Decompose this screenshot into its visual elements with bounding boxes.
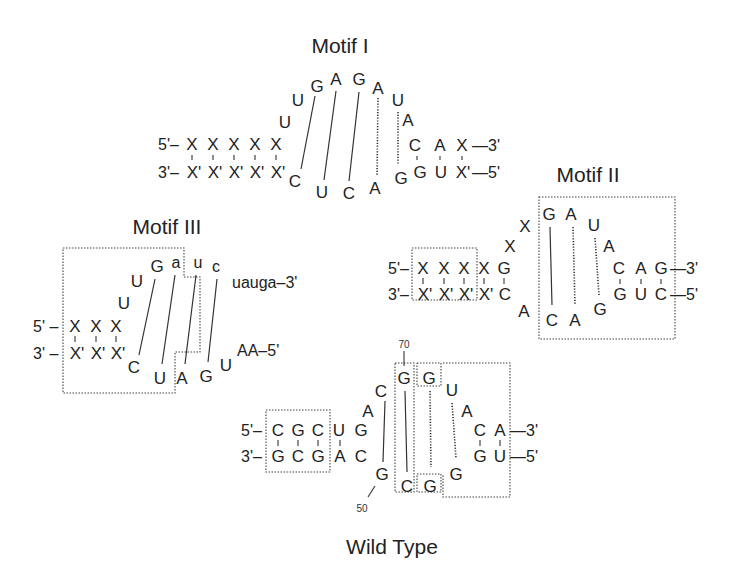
base: X' bbox=[479, 285, 494, 304]
position-70-label: 70 bbox=[398, 339, 410, 350]
base: A bbox=[372, 79, 384, 98]
base: C bbox=[343, 184, 355, 203]
base: C bbox=[355, 447, 367, 466]
base: G bbox=[354, 421, 367, 440]
base: C bbox=[272, 421, 284, 440]
base: U bbox=[635, 285, 647, 304]
base: C bbox=[546, 311, 558, 330]
base: X' bbox=[208, 163, 223, 182]
base: X bbox=[69, 317, 80, 336]
base: G bbox=[654, 259, 667, 278]
base: G bbox=[413, 163, 426, 182]
base: U bbox=[588, 216, 600, 235]
base: G bbox=[422, 369, 435, 388]
base: A bbox=[369, 179, 381, 198]
base: U bbox=[446, 381, 458, 400]
base: U bbox=[292, 91, 304, 110]
base: A bbox=[635, 259, 647, 278]
base: G bbox=[310, 77, 323, 96]
motif-1-3prime-label: 3'– bbox=[158, 164, 179, 181]
base: G bbox=[394, 169, 407, 188]
base: G bbox=[497, 259, 510, 278]
base: A bbox=[461, 402, 473, 421]
motif-3-3prime-label: 3' – bbox=[33, 345, 58, 362]
motif-1: Motif I 5'– 3'– X X X X X X' X' X' X' X'… bbox=[158, 34, 500, 203]
base: G bbox=[423, 477, 436, 496]
base: G bbox=[613, 285, 626, 304]
base: A bbox=[494, 421, 506, 440]
base: X' bbox=[229, 163, 244, 182]
motif-2-title: Motif II bbox=[556, 163, 619, 186]
base: G bbox=[291, 421, 304, 440]
base: G bbox=[593, 300, 606, 319]
base: X bbox=[90, 317, 101, 336]
base: X bbox=[186, 135, 197, 154]
base: A bbox=[565, 205, 577, 224]
base: G bbox=[352, 70, 365, 89]
motif-3-title: Motif III bbox=[133, 215, 202, 238]
base-g50: G bbox=[375, 465, 388, 484]
base: X' bbox=[250, 163, 265, 182]
base: a bbox=[172, 254, 181, 271]
base: C bbox=[289, 172, 301, 191]
motif-3-5prime-tail: AA–5' bbox=[237, 342, 279, 359]
base-g70: G bbox=[397, 369, 410, 388]
wild-5prime-label: 5'– bbox=[241, 422, 262, 439]
base: X bbox=[458, 259, 469, 278]
base: U bbox=[220, 356, 232, 375]
motif-2: Motif II 5'– 3'– X X X X G X' X' X' X' C… bbox=[388, 163, 698, 340]
base: X bbox=[504, 237, 515, 256]
wild-type: Wild Type 5'– 3'– C G C U G G C G A C A … bbox=[241, 339, 538, 558]
base: X' bbox=[456, 163, 471, 182]
base: X bbox=[438, 259, 449, 278]
base: U bbox=[154, 369, 166, 388]
base: U bbox=[333, 421, 345, 440]
motif-2-5prime-label: 5'– bbox=[388, 260, 409, 277]
base: G bbox=[542, 205, 555, 224]
base: U bbox=[316, 183, 328, 202]
base: G bbox=[311, 447, 324, 466]
base: u bbox=[194, 254, 203, 271]
motif-1-5prime-label: 5'– bbox=[158, 136, 179, 153]
base: X bbox=[456, 136, 467, 155]
base: X' bbox=[91, 344, 106, 363]
base: A bbox=[330, 70, 342, 89]
base: C bbox=[375, 382, 387, 401]
base: X bbox=[417, 259, 428, 278]
base: C bbox=[312, 421, 324, 440]
base: X bbox=[110, 317, 121, 336]
base: U bbox=[118, 294, 130, 313]
base: A bbox=[569, 311, 581, 330]
base: A bbox=[603, 237, 615, 256]
base: C bbox=[401, 477, 413, 496]
base: U bbox=[392, 91, 404, 110]
base: X' bbox=[439, 285, 454, 304]
position-50-label: 50 bbox=[356, 503, 368, 514]
base: X' bbox=[459, 285, 474, 304]
base: X' bbox=[271, 163, 286, 182]
base: X bbox=[228, 135, 239, 154]
motif-2-3prime-label: 3'– bbox=[388, 286, 409, 303]
base: C bbox=[474, 421, 486, 440]
base: U bbox=[131, 272, 143, 291]
base: X bbox=[207, 135, 218, 154]
position-50-tick bbox=[368, 486, 375, 497]
base: c bbox=[212, 258, 220, 275]
wild-5prime-end: —5' bbox=[510, 448, 538, 465]
base: C bbox=[292, 447, 304, 466]
base: A bbox=[402, 111, 414, 130]
base: X' bbox=[70, 344, 85, 363]
base: G bbox=[473, 447, 486, 466]
base: X bbox=[519, 217, 530, 236]
motif-3-3prime-tail: uauga–3' bbox=[232, 274, 297, 291]
motif-1-5prime-end: —5' bbox=[472, 164, 500, 181]
wild-3prime-end: —3' bbox=[510, 422, 538, 439]
base: X' bbox=[111, 344, 126, 363]
base: A bbox=[334, 447, 346, 466]
base: X' bbox=[418, 285, 433, 304]
base: C bbox=[613, 259, 625, 278]
base: A bbox=[176, 369, 188, 388]
pair-ticks bbox=[192, 155, 276, 160]
base: X' bbox=[187, 163, 202, 182]
base: X bbox=[478, 259, 489, 278]
